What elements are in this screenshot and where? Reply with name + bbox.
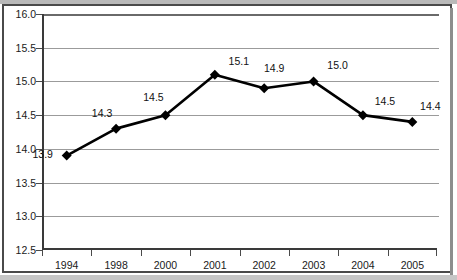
x-axis-tick-label: 1994 xyxy=(55,259,78,271)
data-point-label: 15.0 xyxy=(327,59,347,71)
data-point-label: 13.9 xyxy=(32,148,52,160)
x-axis-tick-label: 2002 xyxy=(253,259,276,271)
y-axis-tick-label: 12.5 xyxy=(2,245,36,255)
data-point-labels: 13.914.314.515.114.915.014.514.4 xyxy=(42,14,437,250)
x-axis-tick xyxy=(289,250,290,256)
x-axis-tick xyxy=(190,250,191,256)
y-axis-tick-label: 15.0 xyxy=(2,76,36,86)
x-axis-tick-label: 2005 xyxy=(401,259,424,271)
data-point-label: 14.4 xyxy=(420,100,440,112)
x-axis-labels: 19941998200020012002200320042005 xyxy=(42,259,437,273)
y-axis-tick-label: 15.5 xyxy=(2,43,36,53)
x-axis-tick-label: 2000 xyxy=(154,259,177,271)
y-axis-tick-label: 13.0 xyxy=(2,211,36,221)
data-point-label: 14.3 xyxy=(92,107,112,119)
chart-page: 16.015.515.014.514.013.513.012.5 13.914.… xyxy=(0,0,457,280)
y-axis-tick-label: 16.0 xyxy=(2,9,36,19)
y-axis-labels: 16.015.515.014.514.013.513.012.5 xyxy=(0,14,36,250)
y-axis-tick-label: 14.0 xyxy=(2,144,36,154)
x-axis-tick-label: 1998 xyxy=(104,259,127,271)
x-axis-tick xyxy=(42,250,43,256)
y-axis-tick-label: 14.5 xyxy=(2,110,36,120)
x-axis-tick xyxy=(388,250,389,256)
x-axis-tick xyxy=(436,250,437,256)
x-axis-tick xyxy=(240,250,241,256)
data-point-label: 14.5 xyxy=(375,95,395,107)
data-point-label: 14.5 xyxy=(143,91,163,103)
data-point-label: 14.9 xyxy=(264,62,284,74)
x-axis-tick-label: 2004 xyxy=(351,259,374,271)
y-axis-tick-label: 13.5 xyxy=(2,178,36,188)
x-axis-tick xyxy=(338,250,339,256)
line-chart: 16.015.515.014.514.013.513.012.5 13.914.… xyxy=(0,0,453,276)
data-point-label: 15.1 xyxy=(229,55,249,67)
x-axis-tick-label: 2003 xyxy=(302,259,325,271)
x-axis-tick-label: 2001 xyxy=(203,259,226,271)
x-axis-tick xyxy=(91,250,92,256)
x-axis-tick xyxy=(141,250,142,256)
x-axis-ticks xyxy=(42,250,437,258)
page-bottom-band xyxy=(0,275,457,280)
